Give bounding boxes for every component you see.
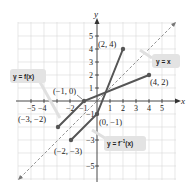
label-2-4: (2, 4): [98, 39, 117, 49]
x-axis-label: x: [180, 96, 185, 106]
identity-badge: y = x: [152, 54, 180, 68]
svg-text:y = f(x): y = f(x): [13, 73, 34, 81]
label-4-2: (4, 2): [150, 77, 169, 87]
svg-text:4: 4: [147, 104, 151, 113]
finv-badge: y = f−1(x): [104, 136, 146, 151]
label-m1-0-pointer: [77, 95, 82, 99]
point-m2-m3: [69, 138, 73, 142]
svg-text:5: 5: [160, 104, 164, 113]
point-m3-m2: [56, 125, 60, 129]
y-axis-label: y: [93, 9, 98, 19]
svg-text:1: 1: [89, 84, 93, 93]
point-0-m1: [95, 112, 99, 116]
svg-text:−4: −4: [38, 104, 47, 113]
svg-text:5: 5: [89, 32, 93, 41]
svg-text:y = f−1(x): y = f−1(x): [107, 139, 133, 148]
label-m2-m3: (−2, −3): [54, 146, 82, 156]
svg-text:2: 2: [121, 104, 125, 113]
svg-text:−3: −3: [86, 136, 95, 145]
svg-text:1: 1: [108, 104, 112, 113]
label-m3-m2: (−3, −2): [18, 114, 46, 124]
identity-leader: [140, 50, 152, 58]
x-tick-labels: −5 −4 −2 −1 1 2 3 4 5: [27, 104, 164, 113]
svg-text:−5: −5: [27, 104, 36, 113]
svg-text:−5: −5: [86, 162, 95, 171]
f-badge: y = f(x): [10, 69, 46, 83]
svg-text:y = x: y = x: [156, 58, 171, 66]
graph: −5 −4 −2 −1 1 2 3 4 5 5 4 3 2 1 −1 −3 −5…: [0, 0, 195, 193]
label-m1-0: (−1, 0): [53, 86, 76, 96]
svg-text:3: 3: [89, 58, 93, 67]
y-tick-labels: 5 4 3 2 1 −1 −3 −5: [86, 32, 95, 171]
point-2-4: [121, 47, 125, 51]
svg-text:2: 2: [89, 71, 93, 80]
svg-text:4: 4: [89, 45, 93, 54]
point-m1-0: [82, 99, 86, 103]
label-0-m1: (0, −1): [99, 117, 122, 127]
svg-text:3: 3: [134, 104, 138, 113]
